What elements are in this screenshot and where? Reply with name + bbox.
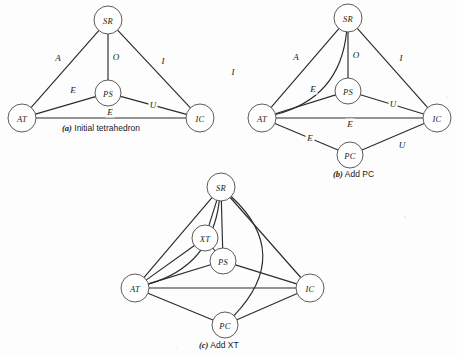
panel-b-caption-tag: (b) — [333, 169, 343, 179]
scan-speck — [447, 96, 448, 98]
node-label-xt: XT — [199, 234, 211, 244]
edge-label-at-ps: E — [309, 84, 316, 94]
panel-a-caption-tag: (a) — [62, 123, 72, 133]
node-label-at: AT — [129, 284, 141, 294]
panel-b-nodes: SRPSATICPC — [248, 4, 451, 168]
panel-a-caption-text: Initial tetrahedron — [72, 123, 140, 133]
edge-ps-at — [148, 265, 210, 284]
node-label-sr: SR — [216, 183, 226, 193]
node-label-sr: SR — [343, 14, 353, 24]
edge-label-sr-ps: O — [353, 50, 360, 60]
scan-speck — [176, 347, 178, 348]
edge-at-pc — [148, 293, 213, 320]
edge-sr-ic — [118, 30, 191, 108]
node-sr[interactable]: SR — [334, 4, 362, 32]
edge-xt-at — [146, 246, 194, 280]
scan-speck — [286, 344, 287, 345]
edge-at-sr — [31, 31, 99, 108]
node-ic[interactable]: IC — [186, 104, 214, 132]
panel-a-caption: (a) Initial tetrahedron — [62, 123, 140, 133]
edge-label-at-ic: E — [346, 119, 353, 129]
node-ps[interactable]: PS — [95, 80, 121, 106]
node-ps[interactable]: PS — [210, 248, 236, 274]
node-at[interactable]: AT — [121, 274, 149, 302]
edge-pc-ic — [362, 123, 424, 149]
edge-label-at-ps: E — [69, 85, 76, 95]
node-label-ps: PS — [217, 257, 228, 267]
panel-c-caption-text: Add XT — [208, 340, 238, 350]
scan-speck — [392, 229, 393, 230]
node-at[interactable]: AT — [248, 104, 276, 132]
panel-b: IAOIEUEEUSRPSATICPC — [229, 4, 452, 168]
node-pc[interactable]: PC — [337, 142, 363, 168]
edge-label-ps-ic: U — [390, 99, 397, 109]
edge-sr-ic — [357, 28, 427, 107]
panel-c-caption: (c) Add XT — [199, 340, 239, 350]
edge-label-pc-ic: U — [399, 140, 406, 150]
edge-sr-ps — [221, 201, 222, 248]
node-label-ic: IC — [195, 114, 205, 124]
edge-label-sr-ps: O — [113, 52, 120, 62]
edge-sr-pc — [231, 197, 263, 316]
edge-label-at-ic: E — [106, 107, 113, 117]
edge-label-at-sr: A — [54, 53, 61, 63]
figure-page: AOIEEUSRPSATICIAOIEUEEUSRPSATICPCSRXTPSA… — [0, 0, 457, 358]
edge-xt-ps — [213, 248, 215, 251]
node-label-at: AT — [256, 114, 268, 124]
edge-ps-ic — [235, 265, 296, 284]
node-ic[interactable]: IC — [423, 104, 451, 132]
panel-b-caption-text: Add PC — [343, 169, 374, 179]
edge-at-ps — [35, 97, 95, 114]
node-label-ps: PS — [342, 87, 353, 97]
edge-at-sr — [271, 29, 339, 108]
edge-label-at-pc: E — [306, 133, 313, 143]
node-label-ic: IC — [305, 284, 315, 294]
node-ps[interactable]: PS — [335, 78, 361, 104]
node-label-pc: PC — [343, 151, 355, 161]
node-label-sr: SR — [103, 16, 113, 26]
node-label-ps: PS — [102, 89, 113, 99]
panel-c-nodes: SRXTPSATICPC — [121, 173, 324, 338]
graph-diagram: AOIEEUSRPSATICIAOIEUEEUSRPSATICPCSRXTPSA… — [0, 0, 457, 358]
node-label-ic: IC — [432, 114, 442, 124]
panel-a: AOIEEUSRPSATIC — [8, 6, 214, 132]
edge-label-at-sr: A — [292, 52, 299, 62]
edge-at-ps — [275, 95, 335, 114]
node-ic[interactable]: IC — [296, 274, 324, 302]
node-at[interactable]: AT — [8, 104, 36, 132]
edge-sr-ic — [230, 198, 300, 278]
scan-speck — [60, 8, 61, 9]
node-label-at: AT — [16, 114, 28, 124]
edge-pc-ic — [237, 294, 297, 320]
node-label-pc: PC — [218, 321, 230, 331]
node-xt[interactable]: XT — [192, 225, 218, 251]
node-pc[interactable]: PC — [212, 312, 238, 338]
edge-label-ps-ic: U — [150, 100, 157, 110]
node-sr[interactable]: SR — [94, 6, 122, 34]
scan-speck — [404, 216, 406, 218]
panel-b-caption: (b) Add PC — [333, 169, 374, 179]
panel-c: SRXTPSATICPC — [121, 173, 324, 338]
node-sr[interactable]: SR — [207, 173, 235, 201]
